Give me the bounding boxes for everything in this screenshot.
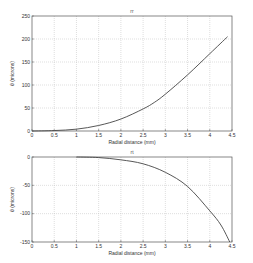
x-tick-label: 1 <box>75 243 78 249</box>
y-tick-label: -50 <box>23 182 30 188</box>
x-tick-label: 1.5 <box>95 132 102 138</box>
x-tick-label: 0.5 <box>51 132 58 138</box>
y-tick-label: 250 <box>22 13 31 19</box>
chart-title: rt <box>130 149 134 155</box>
x-tick-label: 0.5 <box>51 243 58 249</box>
y-tick-label: -100 <box>20 210 30 216</box>
x-tick-label: 4.5 <box>229 243 236 249</box>
x-tick-label: 2 <box>119 243 122 249</box>
y-tick-label: 0 <box>27 154 30 160</box>
x-tick-label: 0 <box>31 243 34 249</box>
chart-title: rr <box>130 8 134 14</box>
x-tick-label: 3.5 <box>184 132 191 138</box>
y-tick-label: 50 <box>24 105 30 111</box>
x-tick-label: 2.5 <box>140 132 147 138</box>
y-tick-label: 150 <box>22 59 31 65</box>
x-tick-label: 3.5 <box>184 243 191 249</box>
subplot-1: 00.511.522.533.544.5050100150200250Radia… <box>9 8 236 145</box>
x-tick-label: 2 <box>119 132 122 138</box>
subplot-2: 00.511.522.533.544.50-50-100-150Radial d… <box>9 149 236 256</box>
plot-area <box>32 157 232 242</box>
y-tick-label: 200 <box>22 36 31 42</box>
y-axis-label: θ (microns) <box>9 187 15 212</box>
chart-figure: 00.511.522.533.544.5050100150200250Radia… <box>0 0 253 263</box>
y-axis-label: θ (microns) <box>9 61 15 86</box>
x-tick-label: 3 <box>164 243 167 249</box>
y-tick-label: 100 <box>22 82 31 88</box>
x-tick-label: 1 <box>75 132 78 138</box>
x-axis-label: Radial distance (mm) <box>108 139 156 145</box>
plot-area <box>32 16 232 131</box>
x-tick-label: 4.5 <box>229 132 236 138</box>
y-tick-label: -150 <box>20 239 30 245</box>
x-tick-label: 2.5 <box>140 243 147 249</box>
x-tick-label: 4 <box>208 243 211 249</box>
x-axis-label: Radial distance (mm) <box>108 250 156 256</box>
x-tick-label: 1.5 <box>95 243 102 249</box>
x-tick-label: 3 <box>164 132 167 138</box>
x-tick-label: 0 <box>31 132 34 138</box>
x-tick-label: 4 <box>208 132 211 138</box>
y-tick-label: 0 <box>27 128 30 134</box>
